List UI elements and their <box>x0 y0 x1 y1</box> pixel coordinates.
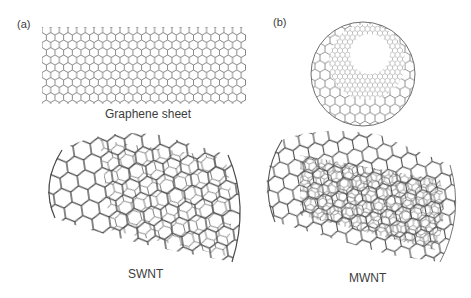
mwnt-top-view-lattice <box>305 18 425 130</box>
figure-artwork <box>0 0 471 298</box>
graphene-sheet-lattice <box>42 27 246 104</box>
graphene-sheet-label: Graphene sheet <box>105 107 191 121</box>
mwnt-lattice <box>250 120 465 270</box>
swnt-lattice <box>30 120 260 280</box>
panel-b-tag: (b) <box>273 15 286 29</box>
nanotube-figure: (a) Graphene sheet SWNT (b) MWNT <box>0 0 471 298</box>
swnt-label: SWNT <box>128 267 163 281</box>
panel-a-tag: (a) <box>17 17 30 31</box>
mwnt-label: MWNT <box>349 271 386 285</box>
